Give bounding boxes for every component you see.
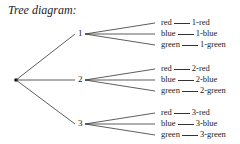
leaf-row: red2-red bbox=[161, 63, 210, 73]
leaf-outcome-label: 1-blue bbox=[196, 28, 218, 38]
leaf-branch-label: red bbox=[161, 17, 172, 27]
branch-line bbox=[16, 34, 75, 80]
leaf-outcome-label: 1-green bbox=[200, 39, 226, 49]
dash-connector bbox=[174, 69, 190, 70]
leaf-outcome-label: 1-red bbox=[192, 17, 210, 27]
leaf-row: blue2-blue bbox=[161, 74, 217, 84]
leaf-outcome-label: 3-blue bbox=[196, 118, 218, 128]
leaf-branch-label: green bbox=[161, 39, 180, 49]
leaf-branch-label: blue bbox=[161, 74, 176, 84]
leaf-branch-label: green bbox=[161, 129, 180, 139]
leaf-branch-line bbox=[85, 80, 155, 91]
leaf-branch-line bbox=[85, 124, 155, 135]
node-label-2: 2 bbox=[78, 74, 83, 84]
leaf-row: green1-green bbox=[161, 39, 226, 49]
leaf-branch-line bbox=[85, 23, 155, 34]
leaf-outcome-label: 3-green bbox=[200, 129, 226, 139]
leaf-branch-line bbox=[85, 113, 155, 124]
leaf-outcome-label: 3-red bbox=[192, 107, 210, 117]
leaf-row: blue1-blue bbox=[161, 28, 217, 38]
leaf-branch-line bbox=[85, 34, 155, 45]
leaf-branch-label: blue bbox=[161, 118, 176, 128]
dash-connector bbox=[178, 34, 194, 35]
dash-connector bbox=[178, 124, 194, 125]
leaf-outcome-label: 2-red bbox=[192, 63, 210, 73]
node-label-3: 3 bbox=[78, 118, 83, 128]
leaf-row: red3-red bbox=[161, 107, 210, 117]
leaf-row: green2-green bbox=[161, 85, 226, 95]
dash-connector bbox=[182, 135, 198, 136]
leaf-branch-label: red bbox=[161, 63, 172, 73]
leaf-outcome-label: 2-blue bbox=[196, 74, 218, 84]
dash-connector bbox=[182, 45, 198, 46]
dash-connector bbox=[178, 80, 194, 81]
leaf-branch-label: red bbox=[161, 107, 172, 117]
branch-line bbox=[16, 80, 75, 124]
dash-connector bbox=[174, 23, 190, 24]
node-label-1: 1 bbox=[78, 28, 83, 38]
leaf-row: green3-green bbox=[161, 129, 226, 139]
leaf-branch-label: blue bbox=[161, 28, 176, 38]
dash-connector bbox=[174, 113, 190, 114]
leaf-outcome-label: 2-green bbox=[200, 85, 226, 95]
leaf-branch-label: green bbox=[161, 85, 180, 95]
dash-connector bbox=[182, 91, 198, 92]
leaf-row: red1-red bbox=[161, 17, 210, 27]
leaf-row: blue3-blue bbox=[161, 118, 217, 128]
leaf-branch-line bbox=[85, 69, 155, 80]
